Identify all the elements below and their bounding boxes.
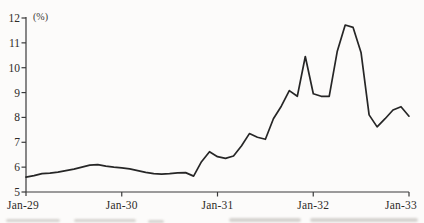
y-tick-label: 10 (0, 61, 20, 75)
caption-artifact (6, 219, 60, 222)
percent-unit-label: (%) (33, 11, 48, 22)
y-tick-label: 7 (0, 135, 20, 149)
caption-artifact (148, 220, 164, 223)
figure-canvas: (%) 12111098765 Jan-29Jan-30Jan-31Jan-32… (0, 0, 424, 223)
x-tick-label: Jan-32 (289, 198, 337, 212)
y-axis (22, 17, 27, 196)
y-tick-label: 8 (0, 110, 20, 124)
y-tick-label: 12 (0, 11, 20, 25)
y-tick-label: 9 (0, 86, 20, 100)
caption-artifact (310, 218, 418, 222)
caption-artifact (229, 218, 301, 222)
x-tick-label: Jan-33 (377, 198, 424, 212)
chart-plot (0, 0, 424, 223)
y-tick-label: 6 (0, 160, 20, 174)
x-tick-label: Jan-31 (194, 198, 242, 212)
x-axis (26, 192, 409, 197)
y-tick-label: 11 (0, 36, 20, 50)
data-line (26, 25, 409, 177)
x-tick-label: Jan-30 (98, 198, 146, 212)
y-tick-label: 5 (0, 185, 20, 199)
caption-artifact (74, 219, 136, 222)
x-tick-label: Jan-29 (0, 198, 47, 212)
